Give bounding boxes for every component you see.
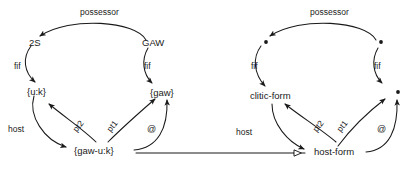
right-edge-label-host: host [236,128,252,137]
right-node-dot-mid-right [396,90,400,94]
right-edge-label-possessor: possessor [310,8,349,17]
right-edge-pt2-path [285,104,336,142]
right-edge-label-at: @ [377,125,386,134]
left-edge-label-host: host [8,125,24,134]
right-node-host-form: host-form [314,147,354,157]
left-node-gaw-uk: {gaw-u:k} [74,146,114,156]
left-node-gaw-brace: {gaw} [150,88,174,98]
right-edge-label-fif-left: fif [251,62,258,71]
left-edge-possessor-path [40,23,146,40]
left-node-gaw: GAW [142,38,164,48]
left-node-uk: {u:k} [27,87,46,97]
left-edge-label-fif-left: fif [14,62,21,71]
left-node-2s: 2S [29,38,41,48]
diagram-canvas: possessor 2S GAW fif fif {u:k} {gaw} hos… [0,0,419,172]
right-node-clitic-form: clitic-form [250,91,291,101]
left-edge-label-fif-right: fif [144,62,151,71]
right-edge-host-path [272,104,304,149]
left-edge-label-at: @ [147,125,156,134]
diagram-strokes [0,0,419,172]
right-edge-possessor-path [270,23,376,40]
right-node-dot-top-right [379,40,383,44]
left-edge-label-possessor: possessor [80,8,119,17]
right-node-dot-top-left [264,40,268,44]
right-edge-label-fif-right: fif [374,62,381,71]
left-edge-fif-left-path [25,46,35,82]
